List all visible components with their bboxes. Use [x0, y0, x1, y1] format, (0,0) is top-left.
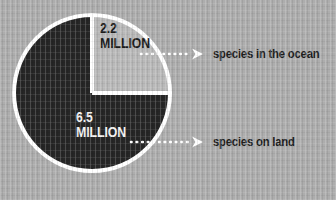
ocean-value-unit: MILLION	[100, 36, 150, 51]
callout-label-species-on-land: species on land	[213, 135, 295, 149]
ocean-value-number: 2.2	[100, 21, 150, 36]
pie-chart-graphic	[0, 0, 336, 200]
land-value-number: 6.5	[76, 110, 126, 125]
land-slice-value-label: 6.5 MILLION	[76, 110, 126, 140]
pie-chart-infographic: 2.2 MILLION 6.5 MILLION species in the o…	[0, 0, 336, 200]
callout-label-species-in-the-ocean: species in the ocean	[213, 47, 319, 61]
ocean-slice-value-label: 2.2 MILLION	[100, 21, 150, 51]
land-value-unit: MILLION	[76, 125, 126, 140]
